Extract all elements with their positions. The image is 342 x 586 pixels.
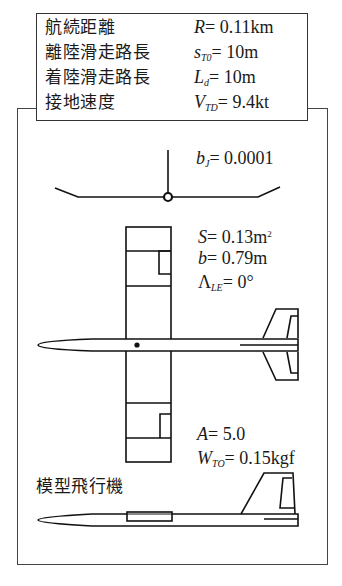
aircraft-drawing [0,0,342,586]
front-fuselage [164,193,172,201]
aileron-lower [160,414,171,438]
model-label: 模型飛行機 [36,472,124,497]
h-stab-lower [263,352,298,380]
elevator-upper [287,316,298,338]
aileron-upper [159,251,171,274]
param-sweep: ΛLE= 0° [198,272,254,298]
side-wing [127,512,172,521]
param-span: b= 0.79m [198,248,267,268]
h-stab-upper [263,309,298,338]
elevator-lower [287,352,298,373]
param-takeoff-weight: WTO= 0.15kgf [197,448,295,474]
param-wing-area: S= 0.13m2 [198,224,272,247]
front-wing [55,188,163,197]
front-wing-right [173,187,280,197]
param-bj: bJ= 0.0001 [196,148,274,174]
cg-mark [134,342,139,347]
param-aspect-ratio: A= 5.0 [197,424,245,444]
